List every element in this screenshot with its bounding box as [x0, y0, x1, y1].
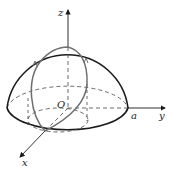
radius-label: a [131, 110, 137, 121]
equator-front [7, 108, 128, 130]
y-axis-label: y [158, 110, 165, 121]
hemisphere-dome-outline [7, 55, 128, 108]
viviani-curve [31, 47, 87, 131]
z-axis-label: z [57, 7, 64, 18]
origin-label: O [57, 99, 65, 110]
equator-back-dashed [7, 86, 128, 108]
hemisphere-diagram: z y x O a [0, 0, 169, 174]
x-axis-label: x [22, 157, 28, 168]
x-axis [20, 131, 45, 157]
